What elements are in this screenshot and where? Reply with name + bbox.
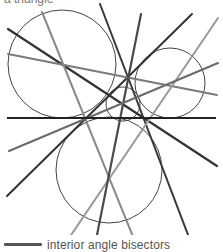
legend-swatch-line-icon [4,243,42,246]
bisector-3 [7,14,192,196]
bisector-1 [8,29,217,166]
bisector-5 [42,12,136,235]
legend: interior angle bisectors [4,238,170,251]
legend-label: interior angle bisectors [47,238,170,252]
bisector-2 [100,4,190,235]
bisector-4 [8,54,217,95]
bisector-8 [9,63,218,151]
triangle-bisectors-diagram [0,0,223,235]
